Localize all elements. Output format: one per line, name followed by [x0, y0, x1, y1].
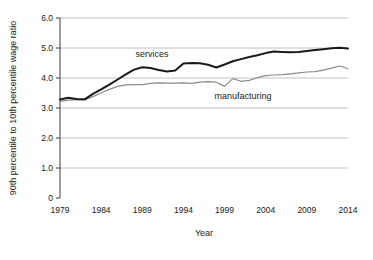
y-tick-label: 6.0: [41, 13, 53, 23]
x-axis-title: Year: [195, 228, 213, 238]
y-tick-marks-group: [56, 18, 60, 198]
y-tick-label: 1.0: [41, 163, 53, 173]
x-tick-labels-group: 19791984198919941999200420092014: [51, 205, 358, 215]
y-tick-label: 4.0: [41, 73, 53, 83]
x-tick-label: 1979: [51, 205, 70, 215]
x-tick-label: 1994: [174, 205, 193, 215]
series-annotation-services: services: [135, 49, 169, 59]
x-tick-label: 1999: [215, 205, 234, 215]
wage-ratio-line-chart: 01.02.03.04.05.06.0 19791984198919941999…: [0, 0, 373, 260]
y-axis-title: 90th percentile to 10th percentile wage …: [8, 21, 18, 196]
y-tick-label: 0: [48, 193, 53, 203]
x-tick-label: 2014: [339, 205, 358, 215]
y-tick-label: 5.0: [41, 43, 53, 53]
chart-canvas: 01.02.03.04.05.06.0 19791984198919941999…: [0, 0, 373, 260]
x-tick-label: 2004: [256, 205, 275, 215]
x-tick-label: 1984: [92, 205, 111, 215]
gridlines-group: [60, 18, 348, 168]
y-tick-labels-group: 01.02.03.04.05.06.0: [41, 13, 53, 203]
y-tick-label: 3.0: [41, 103, 53, 113]
x-tick-label: 2009: [297, 205, 316, 215]
x-tick-label: 1989: [133, 205, 152, 215]
series-line-manufacturing: [60, 66, 348, 101]
series-lines-group: [60, 48, 348, 102]
y-tick-label: 2.0: [41, 133, 53, 143]
series-annotation-manufacturing: manufacturing: [214, 91, 271, 101]
